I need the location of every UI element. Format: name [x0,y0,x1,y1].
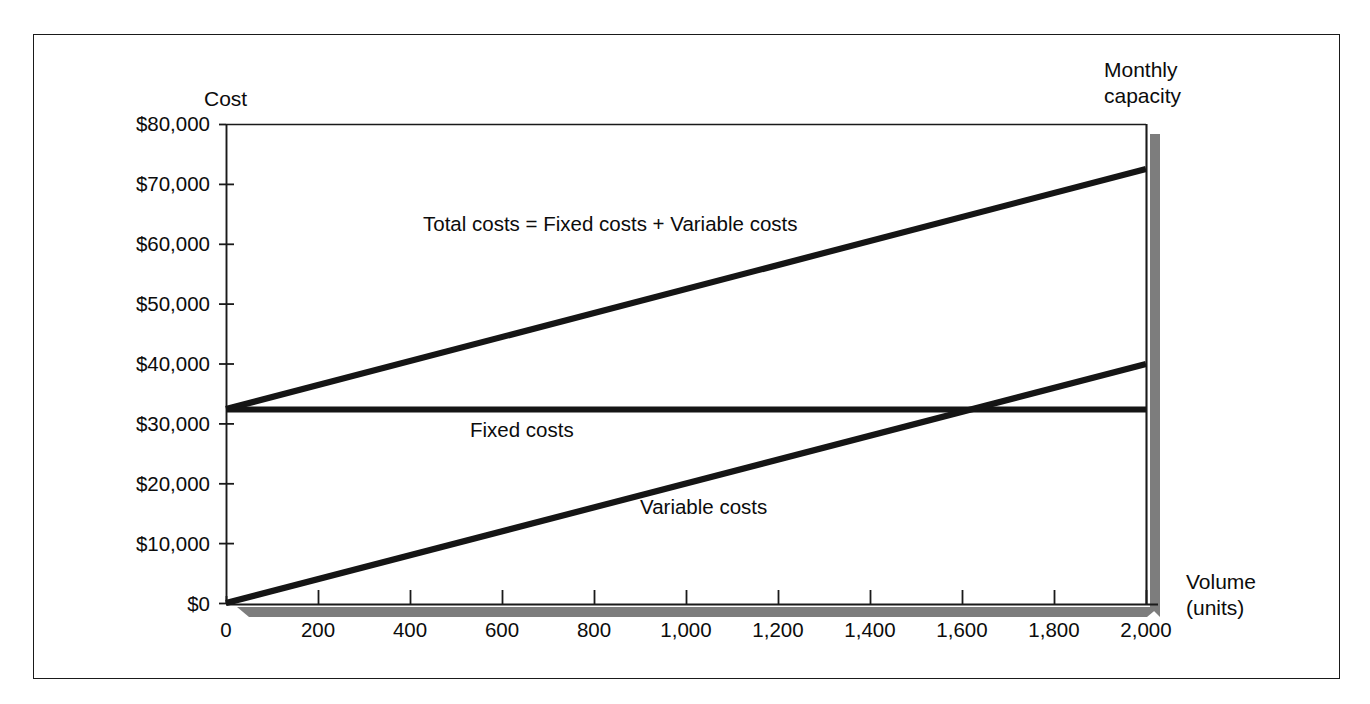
x-tick-label-0: 0 [220,618,231,642]
x-tick-label-1400: 1,400 [844,618,895,642]
cost-behavior-chart-figure: Cost $80,000 $70,000 $60,000 $50,000 $40… [0,0,1370,704]
series-total-costs-line [226,169,1146,409]
x-axis-ticks [227,590,1147,604]
x-tick-label-800: 800 [577,618,611,642]
x-tick-label-1200: 1,200 [752,618,803,642]
y-tick-label-10000: $10,000 [60,532,210,556]
x-axis-shadow [237,607,1159,617]
series-variable-costs-line [226,364,1146,603]
x-tick-label-600: 600 [485,618,519,642]
x-axis-title-line2: (units) [1186,596,1244,621]
x-tick-label-1800: 1,800 [1028,618,1079,642]
y-tick-label-0: $0 [60,592,210,616]
y-tick-label-30000: $30,000 [60,412,210,436]
capacity-line-shadow [1150,134,1160,617]
variable-costs-annotation: Variable costs [640,495,767,519]
fixed-costs-annotation: Fixed costs [470,418,574,442]
y-tick-label-50000: $50,000 [60,292,210,316]
y-axis-title: Cost [204,87,247,112]
y-tick-label-60000: $60,000 [60,232,210,256]
x-tick-label-1600: 1,600 [936,618,987,642]
x-tick-label-1000: 1,000 [660,618,711,642]
y-tick-label-80000: $80,000 [60,112,210,136]
x-tick-label-400: 400 [393,618,427,642]
y-tick-label-70000: $70,000 [60,172,210,196]
monthly-capacity-label-line1: Monthly [1104,58,1178,83]
y-tick-label-20000: $20,000 [60,472,210,496]
total-costs-annotation: Total costs = Fixed costs + Variable cos… [423,212,797,236]
monthly-capacity-label-line2: capacity [1104,84,1181,109]
x-tick-label-2000: 2,000 [1120,618,1171,642]
y-tick-label-40000: $40,000 [60,352,210,376]
x-axis-title-line1: Volume [1186,570,1256,595]
x-tick-label-200: 200 [301,618,335,642]
